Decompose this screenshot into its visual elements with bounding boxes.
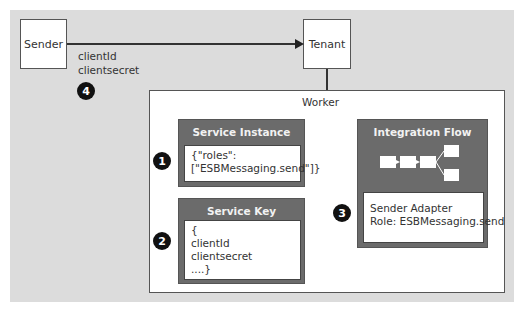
- sender-tenant-arrow: [67, 43, 297, 45]
- flow-diagram-icon: [358, 120, 489, 195]
- step-badge-2: 2: [153, 232, 171, 250]
- step-badge-3: 3: [333, 204, 351, 222]
- integration-flow-box: Integration Flow Sender Adapter Role: ES…: [357, 119, 488, 248]
- worker-label: Worker: [302, 95, 339, 109]
- tenant-node: Tenant: [303, 19, 351, 69]
- service-instance-body: {"roles": ["ESBMessaging.send"]}: [184, 145, 301, 182]
- service-key-title: Service Key: [179, 205, 304, 217]
- tenant-worker-connector: [326, 69, 328, 90]
- service-key-box: Service Key { clientId clientsecret ....…: [178, 198, 305, 284]
- step-badge-4: 4: [77, 82, 95, 100]
- arrowhead-icon: [295, 39, 304, 49]
- edge-label-clientsecret: clientsecret: [78, 63, 139, 77]
- edge-label-clientid: clientId: [78, 49, 117, 63]
- sender-node: Sender: [20, 19, 67, 69]
- service-key-body: { clientId clientsecret ....}: [184, 220, 301, 280]
- integration-flow-body: Sender Adapter Role: ESBMessaging.send: [363, 192, 484, 243]
- step-badge-1: 1: [153, 152, 171, 170]
- sender-label: Sender: [24, 38, 63, 51]
- service-instance-box: Service Instance {"roles": ["ESBMessagin…: [178, 119, 305, 187]
- tenant-label: Tenant: [309, 38, 346, 51]
- service-instance-title: Service Instance: [179, 126, 304, 138]
